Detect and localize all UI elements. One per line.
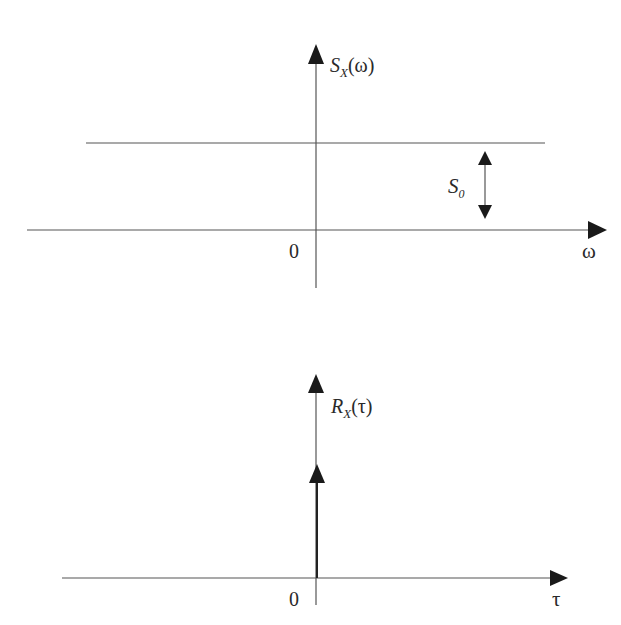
impulse-arrow-icon xyxy=(309,464,325,483)
top-x-axis-arrow-icon xyxy=(588,221,607,239)
bottom-y-axis-label: RX(τ) xyxy=(330,395,373,421)
diagram-canvas: SX(ω) 0 ω S0 RX(τ) 0 τ xyxy=(0,0,621,625)
bottom-plot: RX(τ) 0 τ xyxy=(62,374,568,611)
s0-label: S0 xyxy=(448,174,465,201)
s0-arrow-up-icon xyxy=(478,151,492,165)
top-y-axis-arrow-icon xyxy=(308,44,324,64)
bottom-x-axis-label: τ xyxy=(552,587,560,611)
bottom-origin-label: 0 xyxy=(289,588,299,610)
bottom-x-axis-arrow-icon xyxy=(550,570,568,586)
s0-arrow-down-icon xyxy=(478,205,492,219)
top-origin-label: 0 xyxy=(289,240,299,262)
top-y-axis-label: SX(ω) xyxy=(330,54,374,80)
top-plot: SX(ω) 0 ω S0 xyxy=(27,44,607,288)
top-x-axis-label: ω xyxy=(582,239,596,263)
bottom-y-axis-arrow-icon xyxy=(308,374,324,393)
